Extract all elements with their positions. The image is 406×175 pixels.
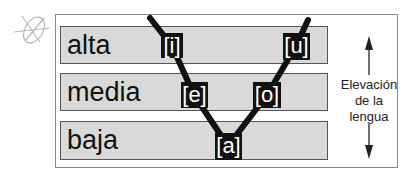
vowel-o: [o] <box>253 82 281 108</box>
axis-label-line-1: Elevación <box>338 77 400 93</box>
axis-label-line-2: de la <box>338 93 400 109</box>
tongue-height-axis-label: Elevación de la lengua <box>338 77 400 125</box>
vowel-u: [u] <box>283 33 310 60</box>
axis-label-line-3: lengua <box>338 109 400 125</box>
vowel-i: [i] <box>161 33 183 58</box>
vowel-a: [a] <box>215 133 242 160</box>
down-arrow-icon <box>365 145 373 159</box>
vowel-e: [e] <box>181 82 208 108</box>
up-arrow-icon <box>365 36 373 50</box>
